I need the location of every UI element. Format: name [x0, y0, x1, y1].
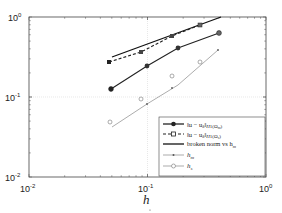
- y-tick-1e0: 100: [8, 12, 22, 23]
- x-tick-1e0: 100: [259, 183, 273, 194]
- series-hs: [108, 60, 202, 124]
- convergence-plot: ‖u − uδ‖H1(Ωm) ‖u − uδ‖H1(Ωs) broken nor…: [0, 0, 282, 213]
- legend: ‖u − uδ‖H1(Ωm) ‖u − uδ‖H1(Ωs) broken nor…: [159, 117, 265, 176]
- series-hm: [112, 49, 219, 127]
- y-tick-1e-2: 10-2: [5, 172, 21, 183]
- series-broken-norm: [112, 17, 221, 57]
- stray-dot: [149, 209, 150, 210]
- y-tick-labels: 100 10-1 10-2: [5, 12, 22, 183]
- x-tick-1e-2: 10-2: [20, 183, 36, 194]
- y-tick-1e-1: 10-1: [5, 92, 21, 103]
- x-axis-label: h: [143, 192, 150, 207]
